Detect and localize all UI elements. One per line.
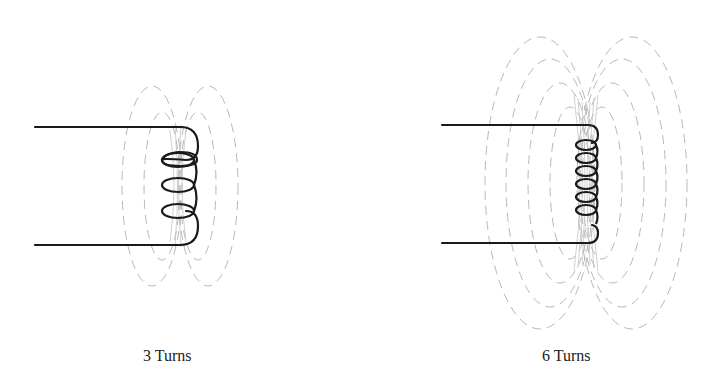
diagram-canvas [0,0,718,390]
label-3-turns: 3 Turns [143,347,191,365]
panel-6-turns [442,37,687,329]
label-6-turns: 6 Turns [542,347,590,365]
field-lines-6-turns [485,37,687,329]
panel-3-turns [35,86,238,286]
wire-6-turns [442,125,598,243]
field-lines-3-turns [122,86,238,286]
wire-3-turns [35,127,198,245]
